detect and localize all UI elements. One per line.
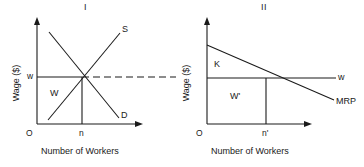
panel-1-quantity-tick-label: n (79, 128, 84, 138)
panel-2-x-axis (207, 121, 312, 127)
panel-2-y-axis (204, 17, 210, 124)
panel-1-wage-tick-label: w (27, 71, 33, 81)
panel-2-x-axis-label: Number of Workers (211, 146, 289, 156)
panel-2-y-axis-label: Wage ($) (181, 53, 191, 113)
panel-1-demand-curve-label: D (121, 110, 128, 120)
figure-canvas: I II (0, 0, 364, 167)
panel-1-supply-curve-label: S (122, 24, 128, 34)
panel-1-wage-bill-area-label: W (50, 88, 59, 98)
panel-1-y-axis-label: Wage ($) (11, 53, 21, 113)
panel-2-mrp-curve (207, 45, 334, 100)
panel-1-y-axis (34, 17, 40, 124)
panel-2-surplus-area-label: K (214, 59, 220, 69)
panel-1-demand-curve (49, 32, 119, 118)
panel-1-origin-label: O (26, 128, 33, 138)
panel-2-origin-label: O (196, 128, 203, 138)
panel-2-wage-line-label: w (338, 72, 345, 82)
panel-2-mrp-curve-label: MRP (336, 96, 356, 106)
panel-1-x-axis-label: Number of Workers (41, 146, 119, 156)
panel-1-x-axis (37, 121, 143, 127)
panel-2-wage-bill-area-label: W' (230, 91, 240, 101)
panel-2-quantity-tick-label: n' (262, 128, 268, 138)
